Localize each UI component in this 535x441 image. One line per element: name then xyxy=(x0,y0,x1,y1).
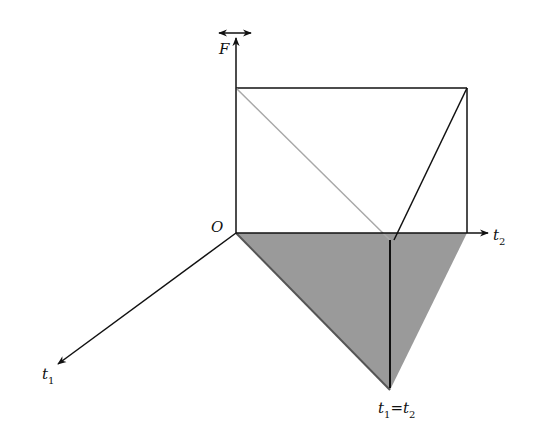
slant-line xyxy=(394,88,467,240)
label-f: F xyxy=(218,40,230,58)
label-t2: t2 xyxy=(493,226,505,247)
diagonal-line xyxy=(236,88,390,240)
label-t1: t1 xyxy=(42,365,54,386)
shaded-region xyxy=(236,233,467,390)
label-t1-equals-t2: t1=t2 xyxy=(378,399,415,420)
label-origin: O xyxy=(211,218,223,236)
t1-axis xyxy=(58,233,236,364)
diagram-canvas: F O t2 t1 t1=t2 xyxy=(0,0,535,441)
